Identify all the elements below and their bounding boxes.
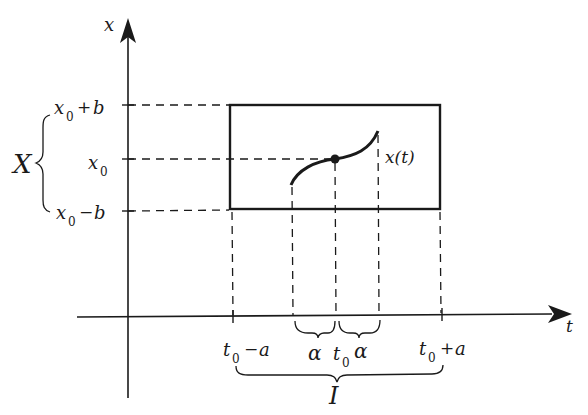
svg-text:0: 0 — [232, 352, 240, 366]
svg-text:0: 0 — [68, 215, 76, 229]
horizontal-brace: I — [236, 365, 443, 410]
svg-text:−: − — [79, 202, 93, 222]
svg-text:t: t — [419, 338, 427, 359]
alpha-right-label: α — [354, 339, 368, 363]
vertical-set-label: X — [11, 149, 33, 179]
tick-label-x0: x 0 — [88, 152, 108, 179]
svg-text:+: + — [77, 97, 91, 117]
horizontal-tick-labels: t 0 − a t 0 t 0 + a — [223, 338, 466, 370]
svg-text:a: a — [259, 339, 270, 360]
vertical-axis-label: x — [104, 14, 114, 35]
svg-text:b: b — [94, 202, 106, 223]
svg-text:0: 0 — [428, 351, 436, 365]
svg-text:0: 0 — [100, 165, 108, 179]
initial-point — [331, 155, 340, 164]
svg-text:b: b — [93, 97, 105, 118]
svg-text:x: x — [88, 152, 98, 173]
curve-label: x(t) — [385, 147, 415, 167]
svg-text:−: − — [244, 339, 258, 359]
vertical-tick-labels: x 0 + b x 0 x 0 − b — [54, 97, 108, 229]
svg-text:t: t — [223, 339, 231, 360]
horizontal-set-label: I — [328, 382, 339, 410]
diagram-canvas: x t x(t) x 0 + b — [0, 0, 588, 415]
horizontal-axis: t — [77, 305, 573, 336]
svg-text:a: a — [455, 338, 466, 359]
tick-label-t0: t 0 — [333, 343, 350, 370]
alpha-braces — [295, 320, 380, 338]
tick-label-x0-minus-b: x 0 − b — [56, 202, 106, 229]
svg-text:x: x — [54, 97, 64, 118]
vertical-brace: X — [11, 115, 50, 212]
vertical-axis: x — [104, 14, 136, 398]
svg-text:0: 0 — [66, 110, 74, 124]
horizontal-axis-label: t — [566, 316, 573, 336]
svg-text:0: 0 — [342, 356, 350, 370]
svg-text:x: x — [56, 202, 66, 223]
tick-label-x0-plus-b: x 0 + b — [54, 97, 105, 124]
alpha-left-label: α — [308, 341, 322, 365]
tick-label-t0-minus-a: t 0 − a — [223, 339, 270, 366]
svg-text:+: + — [440, 338, 454, 358]
svg-text:t: t — [333, 343, 341, 364]
tick-label-t0-plus-a: t 0 + a — [419, 338, 466, 365]
